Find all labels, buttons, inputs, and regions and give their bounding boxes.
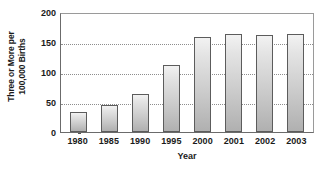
y-axis-title-line-1: Three or More per [6,7,17,127]
x-tick-label-1980: 1980 [62,136,93,146]
x-axis-ticks: 1980 1985 1990 1995 2000 2001 2002 2003 [60,136,314,146]
plot-area [60,13,314,133]
bar-slot-1995 [156,14,187,132]
bar-slot-2002 [249,14,280,132]
bar-slot-2000 [187,14,218,132]
bar-slot-1985 [94,14,125,132]
bar-1985[interactable] [101,105,118,132]
bar-slot-2001 [218,14,249,132]
y-tick-label-150: 150 [22,39,56,48]
bar-1980[interactable] [70,112,87,132]
x-tick-label-2002: 2002 [250,136,281,146]
bar-2003[interactable] [287,34,304,132]
y-tick-label-100: 100 [22,69,56,78]
x-tick-label-2003: 2003 [281,136,312,146]
y-axis-ticks: 200 150 100 50 0 [22,0,56,169]
bar-slot-1990 [125,14,156,132]
y-tick-label-50: 50 [22,99,56,108]
bar-chart: Three or More per 100,000 Births 200 150… [0,0,326,169]
bar-1995[interactable] [163,65,180,132]
y-tick-label-200: 200 [22,9,56,18]
bar-2002[interactable] [256,35,273,132]
x-tick-label-1995: 1995 [156,136,187,146]
bar-2001[interactable] [225,34,242,132]
bar-slot-1980 [63,14,94,132]
y-tick-label-0: 0 [22,129,56,138]
bar-2000[interactable] [194,37,211,132]
x-tick-label-2001: 2001 [218,136,249,146]
x-axis-title: Year [60,151,314,161]
bar-1990[interactable] [132,94,149,132]
y-tick-mark-0 [78,133,81,134]
x-tick-label-1990: 1990 [125,136,156,146]
x-tick-label-2000: 2000 [187,136,218,146]
bar-series [61,14,313,132]
bar-slot-2003 [280,14,311,132]
x-tick-label-1985: 1985 [93,136,124,146]
